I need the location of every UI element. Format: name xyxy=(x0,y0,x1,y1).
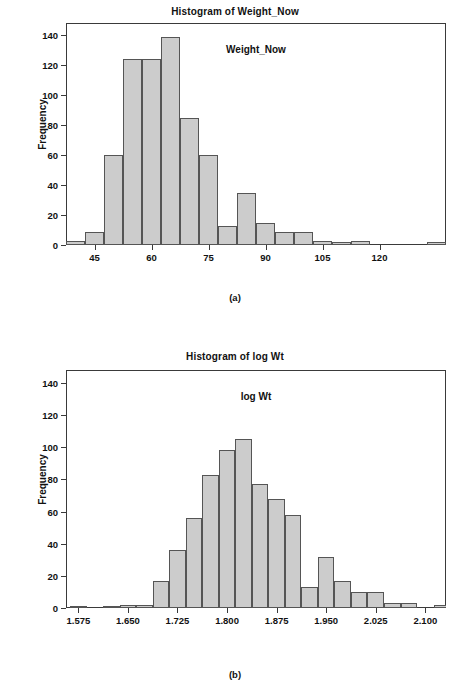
x-axis-tick-label: 2.100 xyxy=(413,615,437,626)
histogram-bar xyxy=(237,193,256,246)
histogram-bar xyxy=(334,581,351,608)
x-axis-tick xyxy=(227,608,228,613)
histogram-bar xyxy=(103,606,120,608)
histogram-bar xyxy=(256,223,275,246)
histogram-bar xyxy=(384,603,401,608)
y-axis-tick xyxy=(61,479,66,480)
x-axis-tick-label: 1.800 xyxy=(215,615,239,626)
panel-caption-a: (a) xyxy=(0,292,470,303)
x-axis-tick-label: 45 xyxy=(89,252,100,263)
y-axis-tick-label: 140 xyxy=(42,377,58,388)
histogram-bar xyxy=(169,550,186,608)
y-axis-tick-label: 80 xyxy=(47,120,58,131)
y-axis-tick xyxy=(61,215,66,216)
x-axis-tick xyxy=(326,608,327,613)
x-axis-tick xyxy=(380,245,381,250)
y-axis-tick-label: 80 xyxy=(47,474,58,485)
x-axis-tick-label: 60 xyxy=(146,252,157,263)
plot-area-b: 020406080100120140 1.5751.6501.7251.8001… xyxy=(66,370,446,608)
histogram-bars-b xyxy=(66,370,446,608)
y-axis-tick-label: 40 xyxy=(47,538,58,549)
x-axis-tick xyxy=(376,608,377,613)
histogram-bar xyxy=(301,587,318,608)
histogram-bar xyxy=(252,484,269,608)
y-axis-tick xyxy=(61,185,66,186)
x-axis-tick xyxy=(95,245,96,250)
x-axis-tick-label: 1.875 xyxy=(265,615,289,626)
x-axis-tick-label: 2.025 xyxy=(364,615,388,626)
x-axis-tick xyxy=(266,245,267,250)
histogram-bar xyxy=(285,515,302,608)
y-axis-tick xyxy=(61,65,66,66)
y-axis-tick xyxy=(61,35,66,36)
x-axis-title-a: Weight_Now xyxy=(66,44,446,55)
y-axis-tick xyxy=(61,576,66,577)
y-axis-tick xyxy=(61,544,66,545)
histogram-bar xyxy=(180,118,199,246)
histogram-bar xyxy=(318,557,335,608)
y-axis-tick-label: 60 xyxy=(47,506,58,517)
histogram-bar xyxy=(235,439,252,608)
histogram-bar xyxy=(66,241,85,246)
x-axis-tick-label: 1.575 xyxy=(66,615,90,626)
histogram-bars-a xyxy=(66,23,446,245)
histogram-bar xyxy=(123,59,142,245)
plot-area-a: 020406080100120140 45607590105120 Freque… xyxy=(66,23,446,245)
y-axis-tick xyxy=(61,245,66,246)
x-axis-tick-label: 120 xyxy=(372,252,388,263)
x-axis-tick-label: 1.950 xyxy=(314,615,338,626)
x-axis-tick-label: 105 xyxy=(315,252,331,263)
histogram-bar xyxy=(351,241,370,246)
y-axis-tick xyxy=(61,125,66,126)
histogram-bar xyxy=(142,59,161,245)
histogram-bar xyxy=(401,603,418,608)
y-axis-tick xyxy=(61,383,66,384)
histogram-bar xyxy=(218,226,237,246)
x-axis-tick xyxy=(323,245,324,250)
y-axis-tick xyxy=(61,155,66,156)
y-axis-tick-label: 120 xyxy=(42,60,58,71)
x-axis-tick-label: 1.650 xyxy=(116,615,140,626)
x-axis-tick-label: 75 xyxy=(203,252,214,263)
x-axis-tick xyxy=(78,608,79,613)
x-axis-tick xyxy=(277,608,278,613)
histogram-bar xyxy=(161,37,180,246)
x-axis-tick-label: 1.725 xyxy=(166,615,190,626)
histogram-bar xyxy=(275,232,294,246)
x-axis-title-b: log Wt xyxy=(66,391,446,402)
x-axis-tick xyxy=(209,245,210,250)
histogram-bar xyxy=(434,605,446,608)
x-axis-tick xyxy=(177,608,178,613)
histogram-bar xyxy=(351,592,368,608)
histogram-bar xyxy=(85,232,104,246)
y-axis-tick xyxy=(61,95,66,96)
x-axis-tick xyxy=(425,608,426,613)
y-axis-title-a: Frequency xyxy=(37,85,48,165)
y-axis-tick xyxy=(61,608,66,609)
chart-title-a: Histogram of Weight_Now xyxy=(0,0,470,17)
histogram-bar xyxy=(199,155,218,245)
y-axis-title-b: Frequency xyxy=(37,440,48,520)
chart-title-b: Histogram of log Wt xyxy=(0,345,470,362)
figure-panel-a: Histogram of Weight_Now 0204060801001201… xyxy=(0,0,470,320)
histogram-bar xyxy=(202,475,219,608)
histogram-bar xyxy=(153,581,170,608)
y-axis-tick-label: 140 xyxy=(42,30,58,41)
y-axis-tick xyxy=(61,415,66,416)
x-axis-tick xyxy=(152,245,153,250)
histogram-bar xyxy=(268,499,285,608)
y-axis-tick-label: 60 xyxy=(47,150,58,161)
y-axis-tick-label: 40 xyxy=(47,180,58,191)
y-axis-tick-label: 20 xyxy=(47,570,58,581)
y-axis-tick xyxy=(61,447,66,448)
y-axis-tick-label: 0 xyxy=(53,603,58,614)
y-axis-tick-label: 0 xyxy=(53,240,58,251)
histogram-bar xyxy=(427,242,446,245)
histogram-bar xyxy=(104,155,123,245)
histogram-bar xyxy=(367,592,384,608)
y-axis-tick-label: 20 xyxy=(47,210,58,221)
figure-panel-b: Histogram of log Wt 020406080100120140 1… xyxy=(0,345,470,680)
x-axis-tick xyxy=(128,608,129,613)
histogram-bar xyxy=(186,518,203,608)
histogram-bar xyxy=(136,605,153,608)
